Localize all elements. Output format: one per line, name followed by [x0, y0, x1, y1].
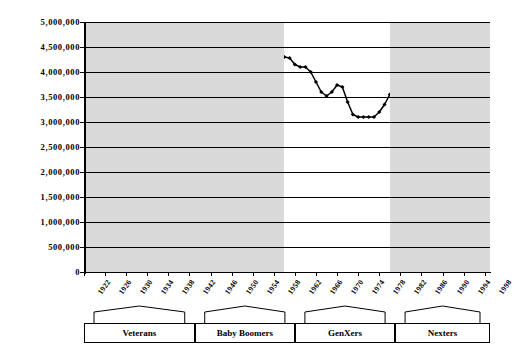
generation-box-nexters: Nexters — [395, 323, 490, 343]
x-tick-mark — [189, 272, 190, 276]
y-tick-mark — [80, 272, 85, 273]
x-tick-mark — [337, 272, 338, 276]
brace — [405, 306, 480, 323]
gridline — [84, 222, 490, 223]
x-tick-mark — [316, 272, 317, 276]
x-tick-label: 1994 — [475, 278, 492, 296]
x-axis — [84, 272, 491, 273]
generation-box-veterans: Veterans — [84, 323, 195, 343]
x-tick-mark — [105, 272, 106, 276]
x-tick-label: 1958 — [286, 278, 303, 296]
x-tick-label: 1970 — [349, 278, 366, 296]
gridline — [84, 22, 490, 23]
y-axis-labels: 0500,0001,000,0001,500,0002,000,0002,500… — [0, 22, 80, 272]
y-tick-label: 5,000,000 — [41, 17, 80, 27]
y-tick-label: 2,000,000 — [41, 167, 80, 177]
gridline — [84, 47, 490, 48]
x-tick-label: 1966 — [328, 278, 345, 296]
x-tick-mark — [253, 272, 254, 276]
gridline — [84, 197, 490, 198]
x-tick-label: 1982 — [412, 278, 429, 296]
y-tick-label: 500,000 — [48, 242, 80, 252]
x-tick-label: 1998 — [497, 278, 514, 296]
gridline — [84, 72, 490, 73]
x-tick-mark — [168, 272, 169, 276]
generation-box-genxers: GenXers — [295, 323, 395, 343]
x-tick-mark — [464, 272, 465, 276]
x-tick-mark — [232, 272, 233, 276]
brace — [94, 306, 185, 323]
x-tick-mark — [211, 272, 212, 276]
gridline — [84, 147, 490, 148]
x-tick-label: 1962 — [307, 278, 324, 296]
x-tick-label: 1990 — [454, 278, 471, 296]
data-point-marker — [346, 100, 350, 104]
y-tick-mark — [80, 222, 85, 223]
generation-box-baby-boomers: Baby Boomers — [195, 323, 295, 343]
x-tick-label: 1938 — [180, 278, 197, 296]
gridline — [84, 122, 490, 123]
y-tick-label: 3,000,000 — [41, 117, 80, 127]
x-tick-label: 1926 — [117, 278, 134, 296]
x-tick-mark — [485, 272, 486, 276]
y-tick-label: 4,500,000 — [41, 42, 80, 52]
x-tick-mark — [379, 272, 380, 276]
y-tick-mark — [80, 172, 85, 173]
x-tick-label: 1978 — [391, 278, 408, 296]
data-point-marker — [367, 115, 371, 119]
x-tick-mark — [421, 272, 422, 276]
x-tick-label: 1954 — [265, 278, 282, 296]
y-tick-mark — [80, 22, 85, 23]
y-tick-mark — [80, 247, 85, 248]
y-tick-label: 2,500,000 — [41, 142, 80, 152]
x-tick-label: 1950 — [243, 278, 260, 296]
gridline — [84, 172, 490, 173]
data-point-marker — [340, 85, 344, 89]
data-point-marker — [361, 115, 365, 119]
x-tick-mark — [295, 272, 296, 276]
x-tick-label: 1986 — [433, 278, 450, 296]
brace — [305, 306, 385, 323]
y-tick-mark — [80, 197, 85, 198]
x-tick-label: 1930 — [138, 278, 155, 296]
y-tick-mark — [80, 72, 85, 73]
x-tick-label: 1974 — [370, 278, 387, 296]
births-by-generation-chart: 0500,0001,000,0001,500,0002,000,0002,500… — [0, 0, 526, 349]
x-tick-mark — [358, 272, 359, 276]
y-axis — [84, 22, 86, 274]
x-tick-label: 1934 — [159, 278, 176, 296]
plot-area — [84, 22, 490, 272]
y-tick-mark — [80, 122, 85, 123]
x-tick-mark — [126, 272, 127, 276]
y-tick-mark — [80, 47, 85, 48]
y-tick-label: 1,500,000 — [41, 192, 80, 202]
gridline — [84, 247, 490, 248]
x-tick-mark — [443, 272, 444, 276]
x-tick-label: 1922 — [96, 278, 113, 296]
x-tick-mark — [147, 272, 148, 276]
y-tick-label: 4,000,000 — [41, 67, 80, 77]
gridline — [84, 97, 490, 98]
x-tick-mark — [274, 272, 275, 276]
brace — [205, 306, 285, 323]
y-tick-mark — [80, 147, 85, 148]
y-tick-mark — [80, 97, 85, 98]
y-tick-label: 3,500,000 — [41, 92, 80, 102]
x-tick-label: 1942 — [201, 278, 218, 296]
x-tick-mark — [400, 272, 401, 276]
y-tick-label: 1,000,000 — [41, 217, 80, 227]
x-tick-label: 1946 — [222, 278, 239, 296]
